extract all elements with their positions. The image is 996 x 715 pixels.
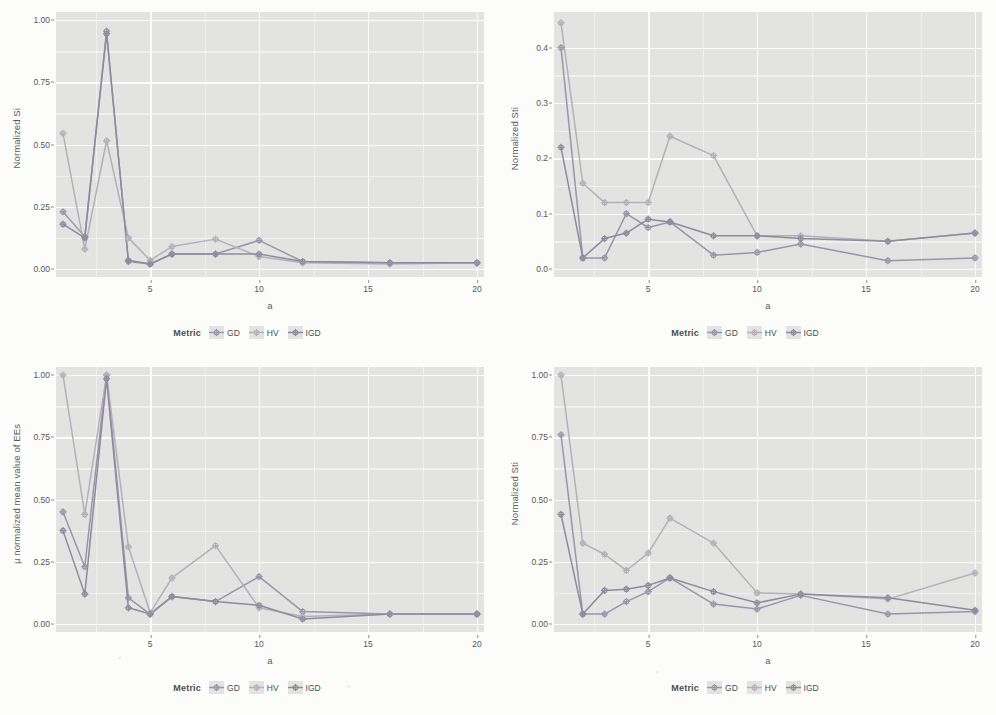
series-marker-igd — [645, 582, 652, 589]
series-marker-hv — [557, 19, 564, 26]
x-tick-label: 5 — [148, 284, 153, 294]
panel-grid: Normalized Si 0.000.250.500.751.00 51015… — [0, 0, 996, 715]
series-marker-hv — [125, 543, 132, 550]
y-tick-label: 0.2 — [536, 153, 548, 163]
y-tick-label: 0.25 — [33, 202, 50, 212]
x-tick-label: 20 — [970, 639, 979, 649]
y-tick-label: 1.00 — [531, 370, 548, 380]
series-marker-igd — [168, 250, 175, 257]
legend: Metric GDHVIGD — [0, 681, 498, 694]
legend: Metric GDHVIGD — [0, 326, 498, 339]
series-marker-gd — [601, 254, 608, 261]
series-marker-hv — [59, 130, 66, 137]
legend-item-label: HV — [267, 328, 279, 338]
series-marker-hv — [81, 511, 88, 518]
legend-item-gd[interactable]: GD — [707, 681, 738, 694]
y-tick-label: 0.50 — [33, 140, 50, 150]
legend-item-gd[interactable]: GD — [707, 326, 738, 339]
x-tick-label: 5 — [646, 639, 651, 649]
series-marker-hv — [666, 133, 673, 140]
legend-item-igd[interactable]: IGD — [288, 326, 321, 339]
figure-canvas: Normalized Si 0.000.250.500.751.00 51015… — [0, 0, 996, 715]
legend-item-gd[interactable]: GD — [209, 326, 240, 339]
series-marker-igd — [884, 238, 891, 245]
legend-item-label: IGD — [306, 683, 321, 693]
x-tick-label: 15 — [861, 639, 870, 649]
series-lines — [554, 12, 982, 277]
legend-item-label: GD — [227, 683, 240, 693]
series-marker-gd — [623, 598, 630, 605]
series-marker-hv — [971, 569, 978, 576]
chart-bottom-left: μ normalized mean value of EEs 0.000.250… — [0, 355, 498, 710]
x-tick-label: 20 — [970, 284, 979, 294]
series-line-igd — [63, 379, 477, 619]
legend-item-label: IGD — [804, 328, 819, 338]
legend-title: Metric — [671, 328, 699, 338]
legend-key-icon — [707, 326, 722, 339]
x-tick-label: 5 — [646, 284, 651, 294]
series-marker-igd — [386, 610, 393, 617]
panel-bottom-right: Normalized Sti 0.000.250.500.751.00 5101… — [498, 355, 996, 710]
legend-key-icon — [707, 681, 722, 694]
x-tick-label: 15 — [363, 639, 372, 649]
legend-item-label: IGD — [306, 328, 321, 338]
series-marker-igd — [971, 229, 978, 236]
x-axis-label: a — [56, 655, 484, 666]
legend-item-label: HV — [267, 683, 279, 693]
legend-key-icon — [249, 681, 264, 694]
x-tick-label: 10 — [254, 284, 263, 294]
legend-item-gd[interactable]: GD — [209, 681, 240, 694]
chart-bottom-right: Normalized Sti 0.000.250.500.751.00 5101… — [498, 355, 996, 710]
plot-area — [554, 12, 982, 277]
legend-key-icon — [209, 326, 224, 339]
legend-item-hv[interactable]: HV — [249, 326, 279, 339]
legend-title: Metric — [173, 683, 201, 693]
legend-key-icon — [747, 326, 762, 339]
y-tick-label: 0.75 — [33, 432, 50, 442]
chart-top-left: Normalized Si 0.000.250.500.751.00 51015… — [0, 0, 498, 355]
plot-area — [56, 12, 484, 277]
series-marker-igd — [473, 259, 480, 266]
legend-item-igd[interactable]: IGD — [786, 326, 819, 339]
legend-key-icon — [747, 681, 762, 694]
series-marker-igd — [623, 229, 630, 236]
panel-top-right: Normalized Sti 0.00.10.20.30.4 5101520 a… — [498, 0, 996, 355]
x-axis-ticks: 5101520 — [56, 634, 484, 650]
series-marker-igd — [212, 250, 219, 257]
series-marker-gd — [601, 610, 608, 617]
panel-bottom-left: μ normalized mean value of EEs 0.000.250… — [0, 355, 498, 710]
x-tick-label: 20 — [472, 639, 481, 649]
series-marker-igd — [212, 598, 219, 605]
series-marker-hv — [81, 245, 88, 252]
series-marker-igd — [81, 591, 88, 598]
series-marker-gd — [645, 224, 652, 231]
legend-key-icon — [249, 326, 264, 339]
series-marker-gd — [884, 257, 891, 264]
x-tick-label: 5 — [148, 639, 153, 649]
series-marker-gd — [256, 237, 263, 244]
series-marker-hv — [666, 515, 673, 522]
legend-item-label: GD — [227, 328, 240, 338]
series-marker-gd — [645, 588, 652, 595]
series-marker-hv — [59, 371, 66, 378]
y-tick-label: 0.50 — [531, 495, 548, 505]
series-marker-hv — [557, 371, 564, 378]
x-tick-label: 10 — [254, 639, 263, 649]
legend-key-icon — [209, 681, 224, 694]
y-axis-ticks: 0.000.250.500.751.00 — [22, 12, 54, 277]
plot-area — [56, 367, 484, 632]
y-tick-label: 0.75 — [531, 432, 548, 442]
series-marker-gd — [710, 600, 717, 607]
legend-item-hv[interactable]: HV — [747, 326, 777, 339]
series-line-igd — [63, 34, 477, 264]
legend-item-hv[interactable]: HV — [249, 681, 279, 694]
legend-item-hv[interactable]: HV — [747, 681, 777, 694]
x-axis-ticks: 5101520 — [554, 634, 982, 650]
legend-item-label: HV — [765, 683, 777, 693]
series-line-hv — [63, 133, 477, 264]
series-marker-hv — [623, 199, 630, 206]
x-tick-label: 10 — [752, 639, 761, 649]
legend-item-igd[interactable]: IGD — [786, 681, 819, 694]
series-marker-igd — [473, 610, 480, 617]
legend-item-igd[interactable]: IGD — [288, 681, 321, 694]
